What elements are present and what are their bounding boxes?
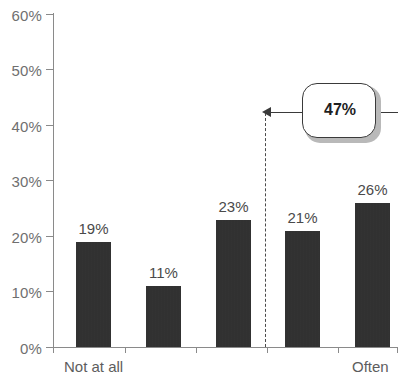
y-axis-tick-label: 60% <box>0 8 42 23</box>
y-axis-tick <box>46 14 53 15</box>
bar <box>355 203 390 347</box>
bar-value-label: 11% <box>138 265 189 280</box>
y-axis-tick-label: 0% <box>0 341 42 356</box>
y-axis-tick-label: 50% <box>0 63 42 78</box>
x-axis-tick <box>125 347 126 353</box>
bar <box>146 286 181 347</box>
bar <box>285 231 320 347</box>
y-axis-line <box>53 13 54 347</box>
callout-value-label: 47% <box>302 102 378 118</box>
x-axis-tick <box>53 347 54 353</box>
x-axis-label-left: Not at all <box>64 359 123 374</box>
bar-value-label: 26% <box>347 182 398 197</box>
y-axis-tick-label: 10% <box>0 285 42 300</box>
y-axis-tick <box>46 69 53 70</box>
bar <box>216 220 251 347</box>
arrow-left-icon <box>262 107 271 117</box>
x-axis-tick <box>196 347 197 353</box>
y-axis-tick <box>46 125 53 126</box>
bar-value-label: 23% <box>208 199 259 214</box>
x-axis-label-right: Often <box>352 359 389 374</box>
x-axis-line <box>53 347 398 348</box>
bar-value-label: 19% <box>68 221 119 236</box>
y-axis-tick <box>46 180 53 181</box>
y-axis-tick <box>46 347 53 348</box>
x-axis-tick <box>267 347 268 353</box>
bar-chart: 60% 50% 40% 30% 20% 10% 0% 19% 11% 23% 2… <box>0 0 398 383</box>
y-axis-tick-label: 30% <box>0 174 42 189</box>
y-axis-tick <box>46 291 53 292</box>
bar <box>76 242 111 347</box>
y-axis-tick-label: 20% <box>0 230 42 245</box>
y-axis-tick-label: 40% <box>0 119 42 134</box>
y-axis-tick <box>46 236 53 237</box>
bar-value-label: 21% <box>277 210 328 225</box>
divider-dashed-line <box>265 113 266 347</box>
callout-leader-line-left <box>266 112 303 113</box>
x-axis-tick <box>338 347 339 353</box>
